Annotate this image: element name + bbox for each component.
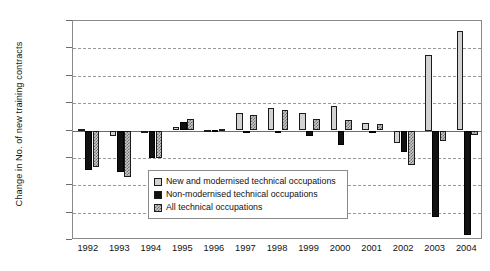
bar bbox=[78, 129, 85, 131]
x-axis-tick-label: 2002 bbox=[393, 243, 414, 253]
bar-group bbox=[362, 21, 383, 238]
x-axis-tick-label: 2000 bbox=[330, 243, 351, 253]
bar bbox=[401, 131, 408, 153]
bar-group bbox=[78, 21, 99, 238]
bar bbox=[471, 131, 478, 135]
y-axis-tick-mark bbox=[66, 20, 72, 21]
bar bbox=[243, 131, 250, 133]
bar bbox=[141, 131, 148, 133]
x-axis-tick-label: 2004 bbox=[456, 243, 477, 253]
y-axis-tick-mark bbox=[66, 239, 72, 240]
legend-item-new-and-modernised: New and modernised technical occupations bbox=[154, 175, 342, 188]
y-axis-tick-mark bbox=[66, 184, 72, 185]
bar bbox=[457, 31, 464, 131]
y-axis-tick-mark bbox=[66, 75, 72, 76]
bar bbox=[149, 131, 156, 159]
bar bbox=[236, 113, 243, 131]
bar bbox=[408, 131, 415, 165]
x-axis-tick-label: 2003 bbox=[424, 243, 445, 253]
y-axis-tick-mark bbox=[66, 157, 72, 158]
bar bbox=[219, 129, 226, 131]
legend-label-new-and-modernised: New and modernised technical occupations bbox=[166, 177, 336, 186]
bar bbox=[432, 131, 439, 217]
x-axis-tick-label: 1994 bbox=[141, 243, 162, 253]
bar-chart: Change in No. of new training contracts … bbox=[0, 0, 490, 271]
bar bbox=[331, 106, 338, 131]
bar bbox=[275, 131, 282, 133]
bar bbox=[250, 115, 257, 130]
y-axis-tick-mark bbox=[66, 130, 72, 131]
bar bbox=[204, 130, 211, 132]
legend-swatch-icon-new-and-modernised bbox=[154, 178, 162, 186]
legend-label-non-modernised: Non-modernised technical occupations bbox=[166, 190, 318, 199]
bar bbox=[338, 131, 345, 145]
bar bbox=[440, 131, 447, 142]
x-axis-tick-label: 1997 bbox=[235, 243, 256, 253]
bar bbox=[369, 131, 376, 133]
bar bbox=[313, 119, 320, 131]
x-axis-tick-label: 1992 bbox=[77, 243, 98, 253]
y-axis-title: Change in No. of new training contracts bbox=[14, 9, 24, 239]
legend-item-all-technical: All technical occupations bbox=[154, 201, 342, 214]
bar bbox=[180, 122, 187, 130]
bar bbox=[110, 131, 117, 136]
bar bbox=[85, 131, 92, 170]
bar bbox=[187, 119, 194, 130]
bar bbox=[425, 55, 432, 130]
legend-swatch-icon-all-technical bbox=[154, 204, 162, 212]
bar bbox=[362, 123, 369, 130]
bar-group bbox=[394, 21, 415, 238]
bar bbox=[345, 120, 352, 130]
bar bbox=[268, 108, 275, 130]
bar-group bbox=[110, 21, 131, 238]
x-axis-tick-label: 1993 bbox=[109, 243, 130, 253]
bar bbox=[377, 124, 384, 131]
legend-item-non-modernised: Non-modernised technical occupations bbox=[154, 188, 342, 201]
x-axis-tick-label: 1996 bbox=[204, 243, 225, 253]
bar-group bbox=[425, 21, 446, 238]
bar bbox=[464, 131, 471, 235]
legend-swatch-icon-non-modernised bbox=[154, 191, 162, 199]
bar bbox=[173, 127, 180, 130]
bar bbox=[299, 113, 306, 130]
bar-group bbox=[457, 21, 478, 238]
y-axis-tick-mark bbox=[66, 212, 72, 213]
x-axis-tick-label: 1999 bbox=[298, 243, 319, 253]
bar bbox=[156, 131, 163, 159]
bar bbox=[93, 131, 100, 168]
bar bbox=[117, 131, 124, 172]
x-axis-tick-label: 1998 bbox=[267, 243, 288, 253]
legend-label-all-technical: All technical occupations bbox=[166, 203, 262, 212]
bar bbox=[394, 131, 401, 144]
bar bbox=[282, 110, 289, 131]
bar bbox=[306, 131, 313, 136]
bar bbox=[124, 131, 131, 178]
y-axis-tick-mark bbox=[66, 102, 72, 103]
chart-legend: New and modernised technical occupations… bbox=[148, 170, 348, 219]
y-axis-tick-mark bbox=[66, 47, 72, 48]
bar bbox=[212, 130, 219, 132]
x-axis-tick-label: 2001 bbox=[361, 243, 382, 253]
x-axis-tick-label: 1995 bbox=[172, 243, 193, 253]
